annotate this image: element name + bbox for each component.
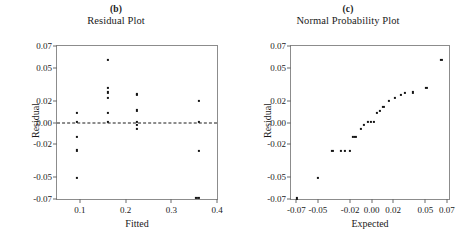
data-point [107,59,109,61]
y-axis-tick-mark [287,100,291,101]
panel-residual-plot: (b) Residual Plot Residual Fitted 0.070.… [0,0,232,245]
data-point [344,150,346,152]
y-axis-tick-label: -0.05 [267,172,286,182]
data-point [136,127,138,129]
y-axis-tick-mark [53,177,57,178]
y-axis-tick-mark [287,67,291,68]
data-point [354,136,356,138]
panel-b-heading: (b) Residual Plot [0,4,232,28]
y-axis-tick-label: 0.00 [270,118,286,128]
data-point [363,124,365,126]
x-axis-tick-label: 0.2 [120,205,131,215]
y-axis-tick-label: 0.00 [36,118,52,128]
data-point [136,109,138,111]
data-point [136,94,138,96]
panel-c-tag: (c) [232,4,464,15]
data-point [425,86,427,88]
data-point [76,121,78,123]
y-axis-tick-mark [53,144,57,145]
x-axis-tick-mark [171,199,172,203]
x-axis-tick-label: 0.1 [74,205,85,215]
x-axis-tick-label: 0.4 [211,205,222,215]
normal-probability-plot-area: Residual Expected 0.070.050.020.00-0.02-… [290,45,450,200]
panel-c-title: Normal Probability Plot [232,15,464,27]
data-point [107,91,109,93]
y-axis-tick-mark [53,100,57,101]
y-axis-tick-mark [287,177,291,178]
y-axis-tick-mark [53,67,57,68]
panel-b-title: Residual Plot [0,15,232,27]
x-axis-tick-label: 0.07 [439,205,455,215]
data-point [369,121,371,123]
x-axis-tick-mark [125,199,126,203]
data-point [331,150,333,152]
data-point [404,92,406,94]
y-axis-tick-label: 0.07 [270,41,286,51]
data-point [360,128,362,130]
data-point [76,112,78,114]
panel-normal-probability-plot: (c) Normal Probability Plot Residual Exp… [232,0,464,245]
data-point [412,91,414,93]
y-axis-tick-mark [53,46,57,47]
data-point [198,121,200,123]
data-point [107,121,109,123]
data-point [198,150,200,152]
data-point [379,110,381,112]
data-point [198,100,200,102]
x-axis-tick-label: 0.05 [417,205,433,215]
data-point [107,86,109,88]
x-axis-tick-mark [317,199,318,203]
x-axis-tick-mark [79,199,80,203]
y-axis-tick-label: 0.05 [36,63,52,73]
data-point [107,112,109,114]
y-axis-tick-label: -0.07 [267,194,286,204]
x-axis-tick-mark [296,199,297,203]
data-point [136,124,138,126]
y-axis-tick-label: 0.05 [270,63,286,73]
data-point [376,112,378,114]
data-point [440,59,442,61]
x-axis-tick-mark [371,199,372,203]
data-point [107,97,109,99]
x-axis-tick-label: -0.02 [341,205,360,215]
y-axis-tick-mark [287,144,291,145]
data-point [400,94,402,96]
data-point [388,100,390,102]
y-axis-tick-label: 0.02 [270,96,286,106]
figure-panel-row: (b) Residual Plot Residual Fitted 0.070.… [0,0,464,245]
x-axis-tick-label: 0.3 [166,205,177,215]
data-point [76,177,78,179]
data-point [373,121,375,123]
y-axis-tick-label: -0.02 [33,139,52,149]
y-axis-tick-mark [287,122,291,123]
data-point [136,121,138,123]
x-axis-tick-label: 0.02 [385,205,401,215]
x-axis-tick-label: -0.05 [308,205,327,215]
panel-c-heading: (c) Normal Probability Plot [232,4,464,28]
y-axis-tick-label: 0.07 [36,41,52,51]
data-point [317,177,319,179]
x-axis-tick-mark [350,199,351,203]
data-point [348,150,350,152]
data-point [76,136,78,138]
y-axis-tick-mark [287,46,291,47]
panel-b-tag: (b) [0,4,232,15]
x-axis-tick-label: -0.07 [287,205,306,215]
y-axis-tick-label: -0.05 [33,172,52,182]
data-point [296,197,298,199]
data-point [382,106,384,108]
x-axis-tick-mark [446,199,447,203]
residual-plot-x-axis-title: Fitted [125,218,148,229]
y-axis-tick-mark [287,199,291,200]
data-point [394,97,396,99]
data-point [340,150,342,152]
x-axis-tick-mark [393,199,394,203]
data-point [198,197,200,199]
x-axis-tick-label: 0.00 [364,205,380,215]
normal-plot-x-axis-title: Expected [351,218,388,229]
y-axis-tick-label: -0.02 [267,139,286,149]
data-point [195,197,197,199]
x-axis-tick-mark [425,199,426,203]
x-axis-tick-mark [217,199,218,203]
y-axis-tick-label: -0.07 [33,194,52,204]
